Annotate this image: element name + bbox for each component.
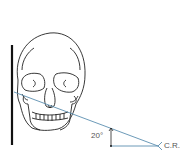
central-ray-label: C.R. <box>164 141 180 150</box>
skull-drawing <box>17 33 85 131</box>
angle-label: 20° <box>91 131 103 140</box>
angle-vertex-dot <box>110 145 112 147</box>
ray-source-arrow-icon <box>158 142 162 150</box>
